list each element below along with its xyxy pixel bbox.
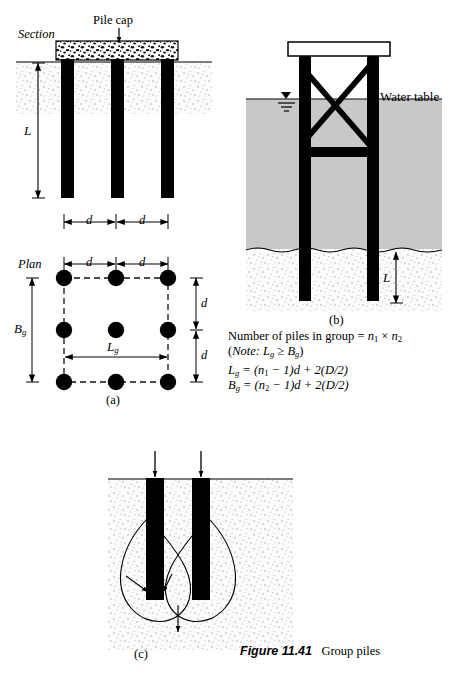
pile-cap — [56, 41, 178, 60]
figure-caption-text: Group piles — [321, 644, 380, 658]
notes-bg2: B — [287, 344, 295, 358]
panel-b-deck — [288, 42, 390, 56]
panel-b-water-region — [246, 99, 442, 251]
notes-note-word: Note: — [232, 344, 260, 358]
section-spacing-dimensions — [64, 214, 168, 229]
plan-lg-label: Lg — [107, 340, 119, 355]
formula-bg: Bg = (n2 − 1)d + 2(D/2) — [228, 379, 349, 393]
plan-bg-dimension — [26, 278, 39, 382]
formula-lg-symbol: L — [228, 363, 235, 377]
formula-lg-rhs: = (n — [239, 363, 264, 377]
formula-bg-rhs: = (n — [240, 378, 265, 392]
plan-vertical-spacing-label-1: d — [201, 297, 207, 310]
panel-b-tag: (b) — [329, 314, 344, 327]
plan-view-label: Plan — [18, 258, 42, 271]
figure-caption-number: Figure 11.41 — [240, 644, 312, 658]
bg-subscript: g — [22, 327, 26, 337]
plan-bg-label: Bg — [14, 322, 26, 337]
plan-spacing-label-2: d — [139, 256, 145, 269]
formula-lg-tail: − 1)d + 2(D/2) — [269, 363, 348, 377]
lg-subscript: g — [114, 345, 118, 355]
notes-times: × — [378, 329, 391, 343]
notes-close-paren: ) — [299, 344, 303, 358]
panel-a-tag: (a) — [106, 394, 120, 407]
formula-bg-tail: − 1)d + 2(D/2) — [269, 378, 348, 392]
plan-piles — [56, 270, 176, 390]
notes-line1-text: Number of piles in group = — [228, 329, 368, 343]
notes-n2-sub: 2 — [398, 334, 402, 344]
notes-lg2: L — [263, 344, 270, 358]
water-table-label: Water table — [380, 90, 439, 103]
panel-c-tag: (c) — [134, 648, 148, 661]
notes-line-1: Number of piles in group = n1 × n2 — [228, 330, 402, 344]
plan-vertical-spacing-label-2: d — [201, 349, 207, 362]
figure-caption: Figure 11.41 Group piles — [240, 645, 380, 658]
notes-geq: ≥ — [274, 344, 287, 358]
bg-symbol: B — [14, 321, 22, 336]
panel-b-seabed-region — [246, 248, 442, 311]
formula-lg: Lg = (n1 − 1)d + 2(D/2) — [228, 364, 348, 378]
section-depth-label: L — [24, 124, 31, 137]
plan-vertical-spacing-dimensions — [190, 278, 203, 382]
section-view-label: Section — [18, 28, 55, 41]
notes-line-2: (Note: Lg ≥ Bg) — [228, 345, 303, 359]
figure-group-piles: Section Pile cap L d d Plan d d d d Bg L… — [0, 0, 452, 681]
plan-spacing-dimensions-top — [64, 257, 168, 271]
panel-b-depth-label: L — [383, 271, 390, 284]
formula-bg-symbol: B — [228, 378, 236, 392]
panel-c-load-arrows — [155, 451, 201, 477]
pile-cap-label: Pile cap — [93, 14, 133, 27]
section-spacing-label-2: d — [139, 214, 145, 227]
plan-spacing-label-1: d — [86, 256, 92, 269]
section-spacing-label-1: d — [86, 214, 92, 227]
